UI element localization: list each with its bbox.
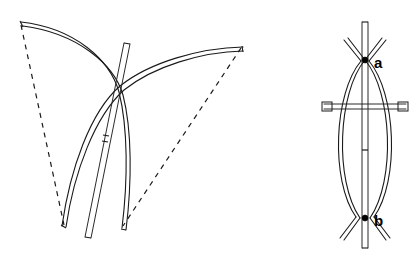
right-edge-view: a b [322,22,408,248]
upper-right-arc [61,46,243,228]
rod-tick-mark [103,135,109,136]
straight-rod [85,43,130,238]
node-b-marker [362,215,368,221]
label-a: a [374,54,383,71]
label-b: b [374,212,383,229]
rod-bottom-cap [85,237,91,238]
arc-right-bottom-cap [61,225,66,228]
node-a-marker [362,57,368,63]
vertical-axis-rod [362,22,368,248]
dashed-chord-left [21,25,64,225]
arc-left-bottom-cap [121,229,126,230]
crossbar-left-cap [322,102,332,111]
crossbar-right-cap [398,102,408,111]
technical-diagram: a b [0,0,410,260]
lens-left-arc [338,38,365,240]
rod-top-cap [124,43,130,44]
left-perspective-view [20,21,243,238]
figure-root: a b [0,0,410,260]
dashed-chord-right [123,48,241,226]
rod-tick-mark-2 [102,141,108,142]
horizontal-crossbar [322,102,408,111]
